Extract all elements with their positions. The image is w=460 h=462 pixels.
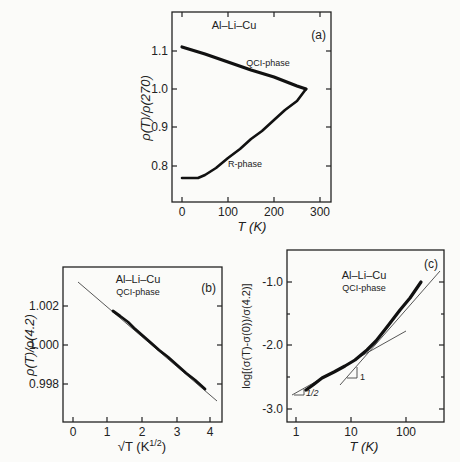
- panel-a-label: (a): [311, 28, 326, 42]
- panel-a-ytick-0: 1.1: [151, 44, 168, 58]
- panel-a-xtick-2: 200: [264, 205, 284, 219]
- panel-a-xtick-3: 300: [310, 205, 330, 219]
- panel-b: 0 1 2 3 4 1.002 1.000 0.998 √T (K1/2) ρ(…: [22, 267, 222, 454]
- panel-b-title: Al–Li–Cu: [116, 273, 161, 285]
- panel-b-y-ticks: [63, 306, 222, 384]
- panel-a-xtick-0: 0: [179, 205, 186, 219]
- panel-a-frame: [172, 12, 331, 202]
- panel-a-xtick-1: 100: [218, 205, 238, 219]
- panel-a-title: Al–Li–Cu: [212, 19, 257, 31]
- panel-a-r-label: R-phase: [228, 159, 262, 169]
- panel-b-ylabel: ρ(T)/ρ(4.2): [22, 314, 37, 377]
- panel-a-y-ticks: [172, 51, 331, 166]
- panel-c-ylabel: log[(σ(T)-σ(0))/σ(4.2)]: [240, 283, 252, 388]
- panel-b-xtick-0: 0: [70, 425, 77, 439]
- panel-b-label: (b): [201, 281, 216, 295]
- panel-c-x-ticks: [296, 417, 406, 422]
- panel-b-x-ticks: [73, 417, 210, 422]
- panel-c-title: Al–Li–Cu: [342, 269, 387, 281]
- panel-b-xtick-3: 3: [174, 425, 181, 439]
- panel-b-xtick-1: 1: [104, 425, 111, 439]
- panel-c: 1 10 100 -1.0 -2.0 -3.0 T (K) log[(σ(T)-…: [240, 250, 444, 454]
- panel-a: 0 100 200 300 1.1 1.0 0.9 0.8 T (K) ρ(T)…: [138, 12, 331, 234]
- panel-c-xtick-2: 100: [396, 425, 416, 439]
- panel-a-ytick-3: 0.8: [151, 159, 168, 173]
- panel-c-slope-one-triangle: [347, 367, 357, 378]
- panel-c-xtick-0: 1: [293, 425, 300, 439]
- panel-a-ytick-2: 0.9: [151, 120, 168, 134]
- panel-b-xtick-4: 4: [207, 425, 214, 439]
- panel-c-slope-half-triangle: [294, 389, 304, 395]
- panel-b-xlabel: √T (K1/2): [118, 438, 166, 454]
- panel-b-xtick-2: 2: [139, 425, 146, 439]
- panel-b-ytick-2: 0.998: [29, 377, 59, 391]
- panel-a-qci-label: QCI-phase: [246, 58, 290, 68]
- panel-a-x-ticks: [182, 12, 320, 202]
- panel-c-slope-one-label: 1: [360, 372, 365, 382]
- figure: 0 100 200 300 1.1 1.0 0.9 0.8 T (K) ρ(T)…: [0, 0, 460, 462]
- panel-b-ytick-0: 1.002: [29, 299, 59, 313]
- panel-b-data: [113, 311, 205, 389]
- panel-b-subtitle: QCI-phase: [116, 287, 160, 297]
- panel-a-ytick-1: 1.0: [151, 82, 168, 96]
- panel-c-label: (c): [424, 257, 438, 271]
- panel-c-xlabel: T (K): [350, 439, 379, 454]
- panel-c-subtitle: QCI-phase: [342, 283, 386, 293]
- panel-a-qci-curve: [182, 47, 306, 89]
- panel-a-xlabel: T (K): [238, 219, 267, 234]
- panel-c-ytick-1: -2.0: [262, 338, 283, 352]
- panel-c-ytick-0: -1.0: [262, 275, 283, 289]
- panel-a-ylabel: ρ(T)/ρ(270): [138, 75, 153, 141]
- panel-c-ytick-2: -3.0: [262, 402, 283, 416]
- panel-c-xtick-1: 10: [344, 425, 358, 439]
